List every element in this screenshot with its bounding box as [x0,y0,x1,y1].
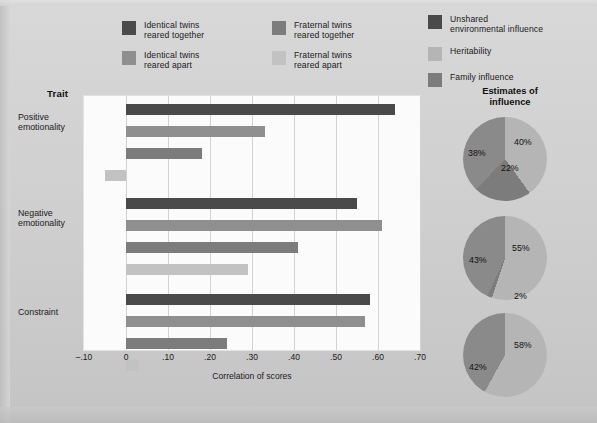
bar [126,338,227,349]
page-edge-top [0,0,597,6]
pie-slice-label: 43% [469,255,487,265]
pie-slice-label: 38% [468,148,486,158]
x-tick-label: .20 [204,352,216,362]
legend-item-label: Unshared environmental influence [450,14,543,35]
bar [126,198,357,209]
legend-swatch-icon [122,51,136,65]
trait-label-positive-emotionality: Positive emotionality [18,112,65,133]
page-edge-bottom [0,407,597,423]
x-tick-label: .70 [414,352,426,362]
x-axis-tick-labels: –.100.10.20.30.40.50.60.70 [84,352,420,368]
bar [126,294,370,305]
legend-swatch-icon [428,15,442,29]
legend-item-identical-together: Identical twins reared together [122,20,204,41]
legend-item-heritability: Heritability [428,46,543,61]
bar [126,264,248,275]
legend-item-label: Identical twins reared together [144,20,204,41]
bar [126,316,365,327]
x-tick-label: .60 [372,352,384,362]
pie-slice-label: 40% [514,137,532,147]
legend-item-label: Family influence [450,72,514,82]
legend-fraternal-twins: Fraternal twins reared together Fraterna… [272,20,354,79]
legend-item-fraternal-apart: Fraternal twins reared apart [272,50,354,71]
legend-swatch-icon [272,21,286,35]
legend-swatch-icon [272,51,286,65]
legend-item-label: Fraternal twins reared apart [294,50,352,71]
bar [126,220,382,231]
bar [126,104,395,115]
pie-slice-label: 42% [469,362,487,372]
page-edge-left [0,0,10,423]
chart-figure: Identical twins reared together Identica… [0,0,597,423]
bar-chart-plot-area [84,96,420,350]
bar [126,242,298,253]
legend-identical-twins: Identical twins reared together Identica… [122,20,204,79]
bar [105,170,126,181]
pies-header: Estimates of influence [455,85,565,107]
pie-slice-label: 2% [514,291,527,301]
bar [126,148,202,159]
x-tick-label: 0 [124,352,129,362]
x-axis-title: Correlation of scores [84,371,420,381]
legend-item-label: Identical twins reared apart [144,50,199,71]
pie-chart [463,117,547,201]
pie-slice-label: 58% [514,340,532,350]
legend-item-label: Fraternal twins reared together [294,20,354,41]
legend-swatch-icon [122,21,136,35]
trait-axis-header: Trait [47,88,68,99]
x-tick-label: .50 [330,352,342,362]
legend-item-label: Heritability [450,46,491,56]
legend-item-unshared-environment: Unshared environmental influence [428,14,543,35]
pie-chart [463,313,547,397]
x-tick-label: –.10 [76,352,93,362]
x-tick-label: .40 [288,352,300,362]
trait-label-negative-emotionality: Negative emotionality [18,208,65,229]
x-tick-label: .10 [162,352,174,362]
pie-slice-label: 22% [501,163,519,173]
x-tick-label: .30 [246,352,258,362]
legend-swatch-icon [428,47,442,61]
legend-swatch-icon [428,73,442,87]
gridline [420,96,421,350]
pie-slice-label: 55% [512,243,530,253]
bar [126,126,265,137]
trait-label-constraint: Constraint [18,307,58,317]
legend-item-fraternal-together: Fraternal twins reared together [272,20,354,41]
legend-item-identical-apart: Identical twins reared apart [122,50,204,71]
